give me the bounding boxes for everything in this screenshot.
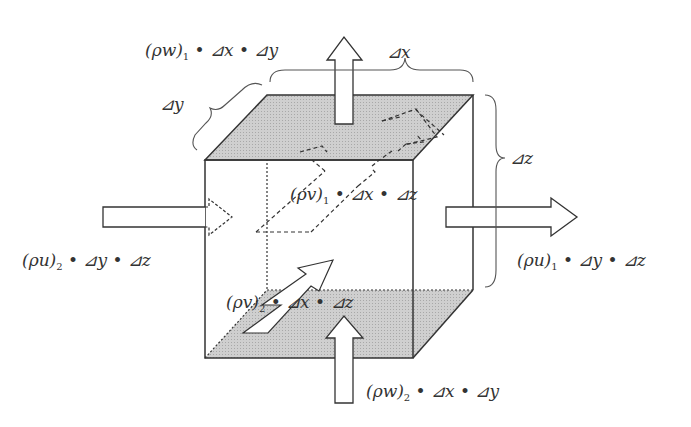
dz-brace [485, 95, 505, 287]
v-out-label: (ρv)1 • ⊿x • ⊿z [290, 184, 419, 206]
dx-brace [270, 58, 473, 82]
v-in-label: (ρv)2 • ⊿x • ⊿z [226, 292, 355, 314]
dy-label: ⊿y [160, 94, 184, 114]
dx-label: ⊿x [387, 42, 411, 62]
control-volume-diagram: ⊿x ⊿y ⊿z (ρw)1 • ⊿x • ⊿y (ρv)1 • ⊿x • ⊿z… [0, 0, 691, 427]
u-in-arrow-head [205, 199, 232, 235]
dz-label: ⊿z [510, 148, 534, 168]
u-out-label: (ρu)1 • ⊿y • ⊿z [517, 250, 647, 272]
w-in-label: (ρw)2 • ⊿x • ⊿y [366, 381, 499, 403]
u-in-label: (ρu)2 • ⊿y • ⊿z [22, 250, 152, 272]
w-out-label: (ρw)1 • ⊿x • ⊿y [145, 40, 278, 62]
u-in-arrow-body [103, 207, 205, 227]
u-out-arrow [446, 198, 577, 236]
